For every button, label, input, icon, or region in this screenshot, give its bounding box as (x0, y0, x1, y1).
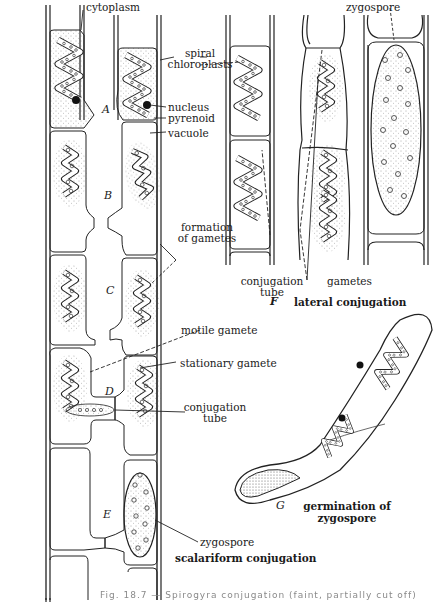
panel-label-g: G (276, 499, 285, 512)
label-stationary-gamete: stationary gamete (180, 358, 277, 369)
label-gametes: gametes (327, 276, 372, 287)
label-formation-of-gametes: formation of gametes (175, 222, 239, 244)
label-zygospore-lateral: zygospore (346, 2, 400, 13)
label-conjugation-tube-scalariform: conjugation tube (183, 402, 247, 424)
title-germination: germination of zygospore (302, 500, 392, 524)
title-lateral-conjugation: lateral conjugation (294, 296, 406, 308)
label-pyrenoid: pyrenoid (168, 113, 215, 124)
title-germination-line2: zygospore (302, 512, 392, 524)
panel-label-e: E (103, 508, 111, 521)
label-formation-line2: of gametes (175, 233, 239, 244)
label-cytoplasm: cytoplasm (86, 2, 140, 13)
panel-label-f: F (270, 295, 278, 308)
label-conj-tube-line2: tube (183, 413, 247, 424)
panel-label-a: A (102, 103, 110, 116)
title-scalariform-conjugation: scalariform conjugation (175, 552, 316, 564)
label-spiral-chloroplasts: spiral chloroplasts (165, 48, 235, 70)
panel-label-d: D (105, 385, 114, 398)
panel-label-b: B (104, 189, 112, 202)
label-spiral-line2: chloroplasts (165, 59, 235, 70)
title-germination-line1: germination of (302, 500, 392, 512)
label-motile-gamete: motile gamete (181, 325, 257, 336)
label-vacuole: vacuole (168, 128, 209, 139)
germinating-zygospore (235, 314, 432, 503)
label-zygospore-scalariform: zygospore (200, 537, 254, 548)
panel-label-c: C (106, 284, 114, 297)
figure-caption: Fig. 18.7 — Spirogyra conjugation (faint… (100, 590, 417, 600)
